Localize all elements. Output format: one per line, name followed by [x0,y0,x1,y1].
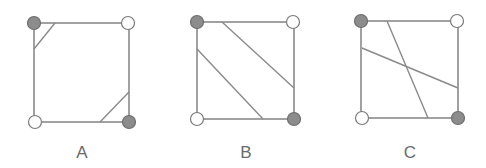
empty-vertex-top-right [451,15,464,28]
diagram-label: B [240,143,251,162]
diagram-label: C [404,143,416,162]
cut-line [197,49,263,119]
filled-vertex-bottom-right [123,116,136,129]
empty-vertex-bottom-left [29,116,42,129]
empty-vertex-top-right [122,17,135,30]
filled-vertex-bottom-right [288,113,301,126]
empty-vertex-bottom-left [356,112,369,125]
empty-vertex-bottom-left [191,113,204,126]
filled-vertex-top-left [355,15,368,28]
filled-vertex-bottom-right [452,112,465,125]
filled-vertex-top-left [191,16,204,29]
square-diagram-a: A [28,17,136,163]
filled-vertex-top-left [28,17,41,30]
cut-line [362,48,458,88]
square-diagram-c: C [355,15,465,163]
diagram-canvas: ABC [0,0,486,168]
cut-line [222,22,294,88]
square-outline [361,21,458,118]
diagram-label: A [76,143,88,162]
cut-line [387,21,428,118]
square-diagram-b: B [191,16,301,163]
square-outline [197,22,294,119]
empty-vertex-top-right [287,16,300,29]
